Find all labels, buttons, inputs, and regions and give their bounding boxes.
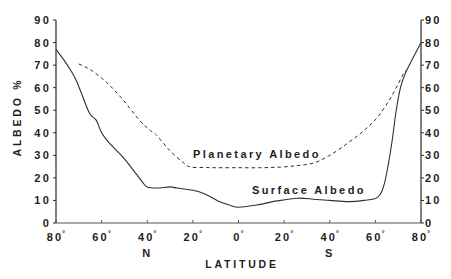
y-tick-label-right: 30 <box>425 149 442 161</box>
x-tick-label: 60° <box>92 230 113 243</box>
north-label: N <box>142 247 152 259</box>
surface-albedo-curve <box>56 43 421 208</box>
y-tick-label-right: 0 <box>425 217 433 229</box>
y-tick-label-right: 60 <box>425 82 442 94</box>
y-tick-label-left: 30 <box>34 149 51 161</box>
x-tick-label: 20° <box>184 230 205 243</box>
y-tick-label-right: 40 <box>425 127 442 139</box>
x-tick-label: 80° <box>47 230 68 243</box>
albedo-chart: 0010102020303040405050606070708080909080… <box>0 0 451 279</box>
y-tick-label-right: 70 <box>425 59 442 71</box>
y-tick-label-right: 50 <box>425 104 442 116</box>
chart-canvas: 0010102020303040405050606070708080909080… <box>0 0 451 279</box>
planetary-albedo-label: Planetary Albedo <box>193 148 321 160</box>
y-tick-label-left: 60 <box>34 82 51 94</box>
south-label: S <box>325 247 335 259</box>
y-tick-label-right: 80 <box>425 37 442 49</box>
y-tick-label-left: 50 <box>34 104 51 116</box>
y-tick-label-left: 40 <box>34 127 51 139</box>
x-tick-label: 40° <box>138 230 159 243</box>
surface-albedo-label: Surface Albedo <box>252 184 366 196</box>
x-tick-label: 80° <box>412 230 433 243</box>
y-tick-label-left: 0 <box>43 217 51 229</box>
x-tick-label: 0° <box>233 230 245 243</box>
y-tick-label-left: 90 <box>34 14 51 26</box>
y-tick-label-left: 70 <box>34 59 51 71</box>
y-tick-label-right: 90 <box>425 14 442 26</box>
y-tick-label-left: 20 <box>34 172 51 184</box>
x-tick-label: 20° <box>275 230 296 243</box>
axes <box>53 20 424 223</box>
y-tick-label-right: 20 <box>425 172 442 184</box>
labels-group: 0010102020303040405050606070708080909080… <box>11 14 442 270</box>
y-tick-label-left: 10 <box>34 194 51 206</box>
y-tick-label-right: 10 <box>425 194 442 206</box>
x-tick-label: 60° <box>366 230 387 243</box>
y-axis-title: ALBEDO % <box>11 78 23 157</box>
x-axis-title: LATITUDE <box>205 258 279 270</box>
series-group <box>56 43 421 208</box>
x-tick-label: 40° <box>320 230 341 243</box>
y-tick-label-left: 80 <box>34 37 51 49</box>
